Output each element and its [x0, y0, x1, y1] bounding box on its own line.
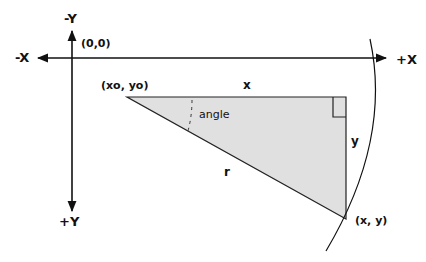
- neg-y-label: -Y: [64, 12, 77, 25]
- origin-label: (0,0): [81, 38, 111, 49]
- neg-x-label: -X: [15, 51, 29, 64]
- angle-label: angle: [199, 109, 230, 120]
- start-point-label: (xo, yo): [101, 80, 148, 91]
- pos-y-label: +Y: [59, 215, 79, 228]
- end-point-label: (x, y): [355, 215, 387, 226]
- hypotenuse-label: r: [224, 166, 230, 178]
- vertical-side-label: y: [351, 135, 359, 147]
- pos-x-label: +X: [396, 53, 417, 66]
- right-triangle: [127, 97, 346, 219]
- horizontal-side-label: x: [243, 79, 251, 91]
